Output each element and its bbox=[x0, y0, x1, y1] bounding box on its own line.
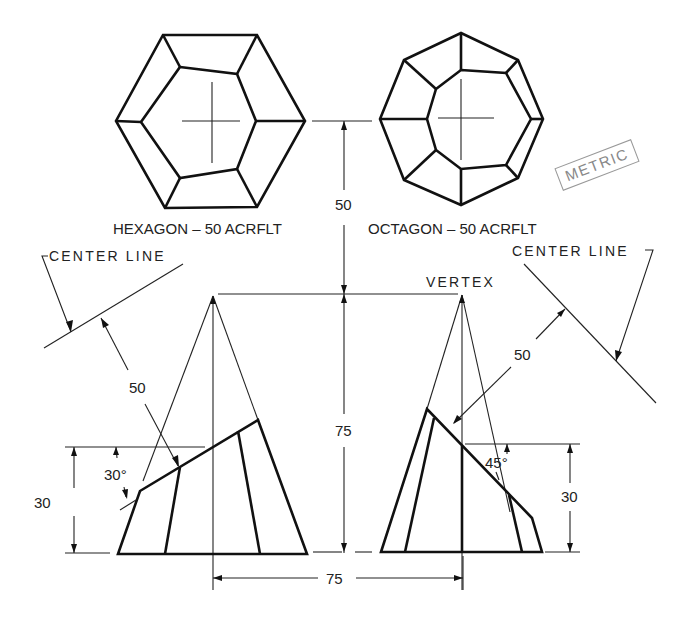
drawing-canvas bbox=[0, 0, 695, 624]
dimension-50-right-value: 50 bbox=[512, 347, 533, 362]
angle-30-label: 30° bbox=[104, 467, 127, 482]
center-line-label-left: CENTER LINE bbox=[49, 249, 166, 263]
dimension-30-left-value: 30 bbox=[32, 495, 53, 510]
dimension-75-height-value: 75 bbox=[333, 423, 354, 438]
dimension-30-right-value: 30 bbox=[559, 489, 580, 504]
octagon-view bbox=[380, 33, 543, 205]
angle-45-label: 45° bbox=[485, 455, 508, 470]
left-center-line bbox=[42, 256, 183, 467]
dimension-75-base-value: 75 bbox=[324, 571, 345, 586]
vertex-label: VERTEX bbox=[426, 275, 495, 289]
right-cone-elevation bbox=[313, 295, 580, 590]
hexagon-view bbox=[116, 35, 305, 208]
left-cone-elevation bbox=[65, 296, 307, 590]
dimension-50-left-value: 50 bbox=[127, 380, 148, 395]
hexagon-label: HEXAGON – 50 ACRFLT bbox=[113, 221, 282, 236]
octagon-label: OCTAGON – 50 ACRFLT bbox=[368, 221, 537, 236]
dimension-50-top-value: 50 bbox=[333, 197, 354, 212]
center-line-label-right: CENTER LINE bbox=[512, 244, 629, 258]
dimension-30-left bbox=[71, 447, 128, 553]
